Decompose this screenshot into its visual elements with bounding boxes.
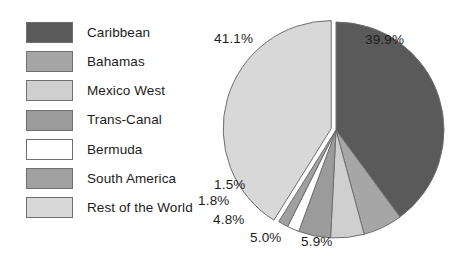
legend-swatch-rest-of-the-world [26,197,73,218]
legend-label-mexico-west: Mexico West [87,84,165,98]
legend-label-bahamas: Bahamas [87,55,145,69]
pie-chart-figure: Caribbean Bahamas Mexico West Trans-Cana… [0,0,471,264]
legend-item-rest-of-the-world: Rest of the World [26,193,216,222]
legend-label-trans-canal: Trans-Canal [87,113,162,127]
legend-swatch-caribbean [26,22,73,43]
legend-item-trans-canal: Trans-Canal [26,106,216,135]
legend-item-bahamas: Bahamas [26,47,216,76]
legend-swatch-mexico-west [26,80,73,101]
legend-item-mexico-west: Mexico West [26,76,216,105]
legend-label-rest-of-the-world: Rest of the World [87,201,193,215]
slice-label-bahamas: 5.9% [301,235,333,249]
legend-swatch-trans-canal [26,110,73,131]
slice-label-rest-of-the-world: 41.1% [214,32,253,46]
slice-label-caribbean: 39.9% [365,33,404,47]
legend-label-south-america: South America [87,172,176,186]
chart-legend: Caribbean Bahamas Mexico West Trans-Cana… [26,18,216,222]
legend-item-south-america: South America [26,164,216,193]
slice-label-mexico-west: 5.0% [250,231,282,245]
legend-swatch-bahamas [26,51,73,72]
legend-item-bermuda: Bermuda [26,135,216,164]
slice-label-south-america: 1.5% [214,178,246,192]
slice-label-trans-canal: 4.8% [213,213,245,227]
pie-slice-group [223,21,444,238]
legend-item-caribbean: Caribbean [26,18,216,47]
legend-label-caribbean: Caribbean [87,26,150,40]
legend-label-bermuda: Bermuda [87,143,142,157]
legend-swatch-south-america [26,168,73,189]
slice-label-bermuda: 1.8% [198,194,230,208]
pie-chart-plot: 39.9% 5.9% 5.0% 4.8% 1.8% 1.5% 41.1% [200,0,471,264]
legend-swatch-bermuda [26,139,73,160]
